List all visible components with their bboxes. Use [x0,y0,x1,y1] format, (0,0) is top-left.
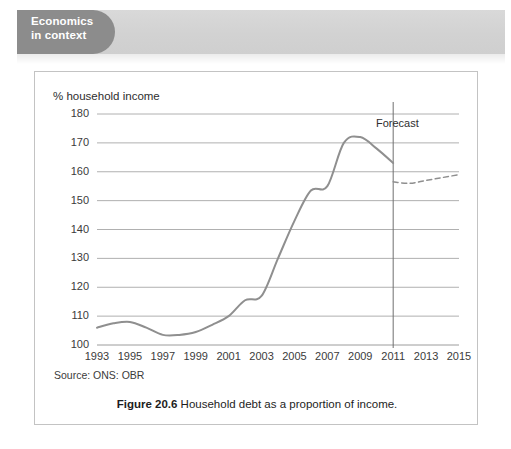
x-tick-label: 1993 [81,350,113,362]
x-tick-label: 2009 [344,350,376,362]
y-tick-label: 100 [63,338,89,350]
y-tick-label: 160 [63,165,89,177]
figure-caption: Figure 20.6 Household debt as a proporti… [35,398,479,410]
economics-in-context-label: Economics in context [31,15,111,42]
chart-source-text: Source: ONS: OBR [54,369,144,381]
line-chart: % household income 180170160150140130120… [35,72,479,426]
x-tick-label: 2003 [246,350,278,362]
y-tick-label: 130 [63,251,89,263]
y-tick-label: 170 [63,136,89,148]
y-tick-label: 120 [63,280,89,292]
x-tick-label: 2005 [278,350,310,362]
x-tick-label: 2015 [443,350,475,362]
tab-line-1: Economics [31,15,93,27]
y-tick-label: 110 [63,309,89,321]
data-series-group [97,136,459,335]
figure-box: % household income 180170160150140130120… [34,71,478,425]
y-tick-label: 150 [63,194,89,206]
x-tick-label: 1997 [147,350,179,362]
figure-caption-label: Figure 20.6 [117,398,178,410]
actual-series-line [97,136,393,335]
x-tick-label: 2007 [311,350,343,362]
tab-line-2: in context [31,29,86,41]
x-tick-label: 2013 [410,350,442,362]
forecast-annotation-label: Forecast [376,117,419,129]
x-tick-label: 1995 [114,350,146,362]
forecast-series-line [393,175,459,184]
y-tick-label: 140 [63,223,89,235]
x-tick-label: 1999 [180,350,212,362]
y-axis-title: % household income [53,90,160,102]
y-tick-label: 180 [63,107,89,119]
figure-caption-text: Household debt as a proportion of income… [181,398,398,410]
gridlines-group [97,114,459,345]
header-band-fade [17,54,505,64]
x-tick-label: 2001 [213,350,245,362]
x-tick-label: 2011 [377,350,409,362]
